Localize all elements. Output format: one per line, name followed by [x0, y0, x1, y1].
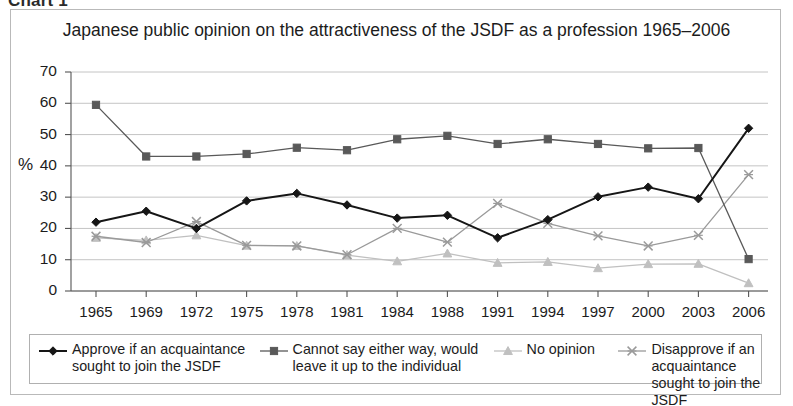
chart-page: Chart 1 Japanese public opinion on the a… — [0, 0, 793, 406]
y-tick-label: 0 — [27, 281, 57, 299]
y-tick-label: 60 — [27, 93, 57, 111]
legend-label: No opinion — [527, 341, 595, 358]
figure-caption: Chart 1 — [8, 0, 68, 7]
triangle-marker-icon — [493, 342, 523, 360]
y-tick-label: 70 — [27, 62, 57, 80]
legend-label: Approve if an acquaintance sought to joi… — [72, 341, 245, 375]
cross-marker-icon — [617, 342, 647, 360]
legend-item[interactable]: Approve if an acquaintance sought to joi… — [30, 341, 251, 375]
legend-label: Cannot say either way, would leave it up… — [293, 341, 479, 375]
y-tick-label: 30 — [27, 187, 57, 205]
y-tick-label: 10 — [27, 250, 57, 268]
x-tick-label: 2006 — [719, 303, 779, 320]
y-tick-label: 20 — [27, 218, 57, 236]
legend-item[interactable]: No opinion — [485, 341, 610, 360]
legend-item[interactable]: Disapprove if an acquaintance sought to … — [609, 341, 761, 406]
legend: Approve if an acquaintance sought to joi… — [29, 334, 762, 384]
square-marker-icon — [259, 342, 289, 360]
y-tick-label: 50 — [27, 125, 57, 143]
diamond-marker-icon — [38, 342, 68, 360]
legend-item[interactable]: Cannot say either way, would leave it up… — [251, 341, 485, 375]
legend-label: Disapprove if an acquaintance sought to … — [651, 341, 761, 406]
legend-items: Approve if an acquaintance sought to joi… — [30, 335, 761, 383]
y-tick-label: 40 — [27, 156, 57, 174]
chart-title: Japanese public opinion on the attractiv… — [0, 20, 793, 41]
